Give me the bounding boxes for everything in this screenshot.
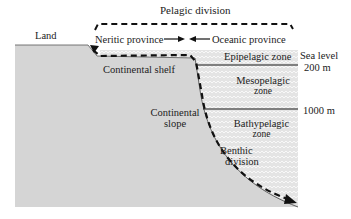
oceanic-province-label: Oceanic province [212, 34, 286, 45]
oceanic-arrowhead [189, 36, 196, 42]
bathypelagic-zone-label: Bathypelagic zone [224, 118, 299, 140]
land-label: Land [35, 30, 57, 41]
neritic-province-label: Neritic province [95, 34, 164, 45]
depth-200-label: 200 m [304, 62, 331, 73]
epipelagic-zone-label: Epipelagic zone [224, 51, 291, 62]
benthic-division-label: Benthic division [220, 145, 259, 167]
pelagic-bracket [95, 24, 293, 30]
depth-1000-label: 1000 m [303, 105, 335, 116]
pelagic-division-label: Pelagic division [160, 5, 231, 16]
mesopelagic-line-2: zone [228, 86, 298, 97]
bathypelagic-line-2: zone [224, 129, 299, 140]
mesopelagic-zone-label: Mesopelagic zone [228, 75, 298, 97]
bathypelagic-line-1: Bathypelagic [224, 118, 299, 129]
continental-slope-line-2: slope [145, 118, 205, 129]
mesopelagic-line-1: Mesopelagic [228, 75, 298, 86]
continental-shelf-label: Continental shelf [103, 64, 175, 75]
sea-level-label: Sea level [300, 50, 338, 61]
neritic-arrowhead [178, 36, 185, 42]
benthic-line-2: division [220, 156, 259, 167]
continental-slope-line-1: Continental [145, 107, 205, 118]
benthic-line-1: Benthic [220, 145, 259, 156]
continental-slope-label: Continental slope [145, 107, 205, 129]
